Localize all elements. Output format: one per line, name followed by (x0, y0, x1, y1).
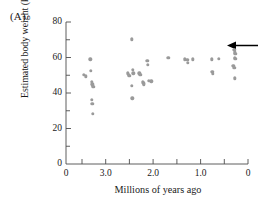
data-point (138, 73, 141, 76)
data-point (211, 72, 214, 75)
y-tick-label-60: 60 (36, 52, 62, 62)
data-point (132, 71, 135, 74)
data-point (91, 112, 94, 115)
data-point (167, 56, 170, 59)
data-point (234, 52, 237, 55)
x-tick-label-2-0: 2.0 (140, 168, 166, 178)
x-tick-label-3-0: 3.0 (93, 168, 119, 178)
data-point (186, 61, 189, 64)
data-point (233, 77, 236, 80)
data-point (128, 74, 131, 77)
y-tick-label-20: 20 (36, 123, 62, 133)
data-point (89, 69, 92, 72)
data-point (91, 102, 94, 105)
x-origin-label: 0 (53, 168, 79, 178)
data-point (217, 57, 220, 60)
y-tick-label-40: 40 (36, 87, 62, 97)
y-tick-label-0: 0 (36, 158, 62, 168)
data-point (233, 66, 236, 69)
data-point (142, 83, 145, 86)
data-point (84, 75, 87, 78)
data-point (90, 98, 93, 101)
data-point (234, 57, 237, 60)
y-axis-title: Estimated body weight (kg) (19, 0, 30, 114)
data-point (146, 63, 149, 66)
x-axis-title: Millions of years ago (58, 184, 258, 195)
data-point (210, 58, 213, 61)
data-point (89, 58, 92, 61)
y-tick-label-80: 80 (36, 16, 62, 26)
data-point (131, 97, 134, 100)
x-tick-label-1-0: 1.0 (188, 168, 214, 178)
x-tick-label-0: 0 (235, 168, 261, 178)
data-point (191, 58, 194, 61)
data-point (130, 84, 133, 87)
figure-panel-a: (A) 80 6 (0, 0, 261, 206)
data-point (150, 80, 153, 83)
data-point (130, 38, 133, 41)
data-point (92, 85, 95, 88)
scatter-plot-area (66, 22, 248, 164)
